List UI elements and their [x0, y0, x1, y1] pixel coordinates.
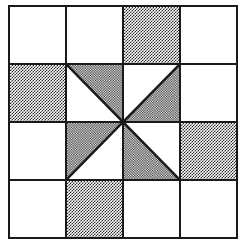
cell-r3c3-half-triangle: [124, 123, 179, 179]
cell-r1c3-dark: [124, 7, 179, 63]
half-square-triangle-shape: [67, 123, 122, 179]
cell-r1c4-light: [181, 7, 236, 63]
cell-r2c3-half-triangle: [124, 65, 179, 121]
cell-r3c4-dark: [181, 123, 236, 179]
cell-r4c1-light: [10, 181, 65, 237]
cell-r3c1-light: [10, 123, 65, 179]
quilt-grid: [10, 7, 236, 237]
cell-r2c2-half-triangle: [67, 65, 122, 121]
cell-r2c4-light: [181, 65, 236, 121]
cell-r1c2-light: [67, 7, 122, 63]
quilt-block-figure: [0, 0, 246, 251]
cell-r4c2-dark: [67, 181, 122, 237]
cell-r4c3-light: [124, 181, 179, 237]
cell-r1c1-light: [10, 7, 65, 63]
half-square-triangle-shape: [67, 65, 122, 121]
cell-r3c2-half-triangle: [67, 123, 122, 179]
cell-r4c4-light: [181, 181, 236, 237]
half-square-triangle-shape: [124, 123, 179, 179]
half-square-triangle-shape: [124, 65, 179, 121]
quilt-block-outer-border: [8, 5, 238, 239]
cell-r2c1-dark: [10, 65, 65, 121]
